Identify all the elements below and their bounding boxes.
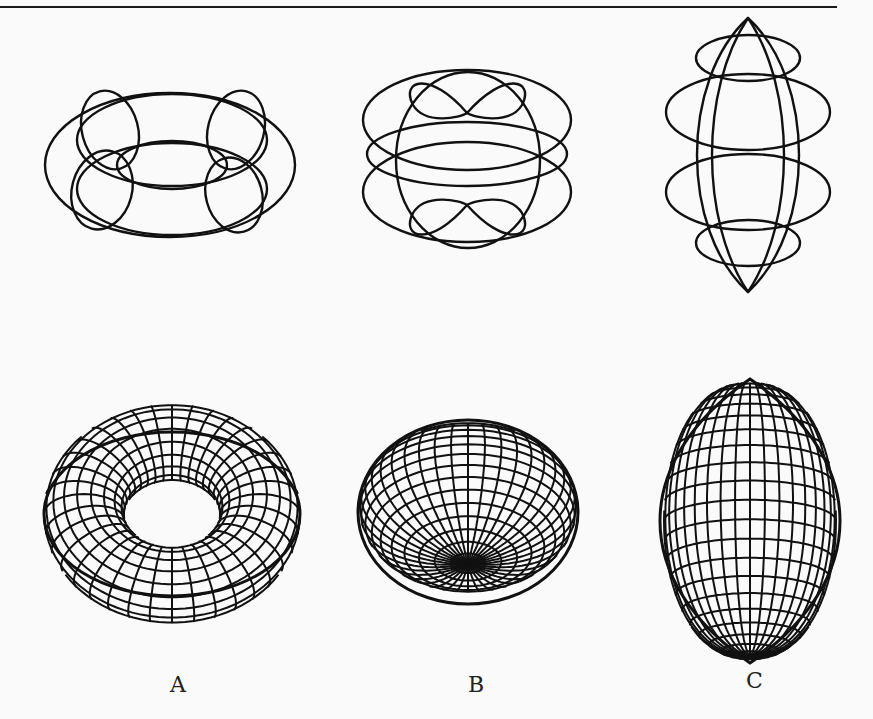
panel-label-b: B [468,672,484,697]
oblate-wireframe [363,70,571,248]
surfaces-figure [0,0,873,719]
torus-mesh [44,405,300,624]
oblate-mesh [358,420,578,604]
prolate-mesh [660,379,840,663]
torus-wireframe [45,84,295,239]
panel-label-a: A [170,672,186,697]
panel-label-c: C [746,668,763,693]
prolate-wireframe [666,18,830,292]
